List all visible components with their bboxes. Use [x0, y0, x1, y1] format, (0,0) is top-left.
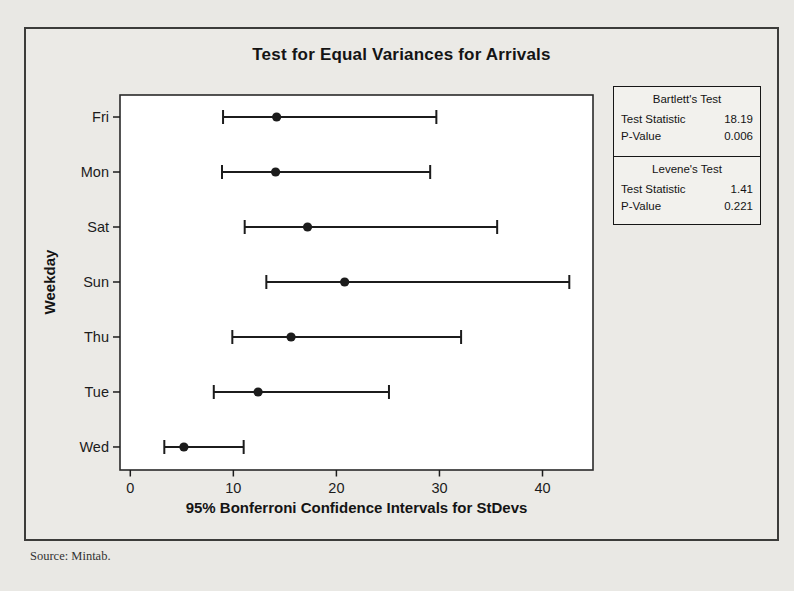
category-label: Sun — [83, 274, 109, 290]
stat-label: P-Value — [621, 198, 661, 215]
stdev-point-sat — [303, 222, 312, 231]
levene-test-title: Levene's Test — [621, 163, 753, 175]
x-tick-label: 40 — [534, 480, 550, 496]
stdev-point-thu — [286, 332, 295, 341]
stat-row: P-Value 0.221 — [621, 198, 753, 215]
stat-label: P-Value — [621, 128, 661, 145]
stdev-point-sun — [340, 277, 349, 286]
stats-panel: Bartlett's Test Test Statistic 18.19 P-V… — [613, 86, 761, 225]
stat-value: 18.19 — [724, 111, 753, 128]
bartlett-test-title: Bartlett's Test — [621, 93, 753, 105]
category-label: Wed — [79, 439, 109, 455]
stat-value: 0.221 — [724, 198, 753, 215]
stat-value: 0.006 — [724, 128, 753, 145]
stdev-point-wed — [179, 442, 188, 451]
stdev-point-mon — [271, 167, 280, 176]
category-label: Mon — [81, 164, 109, 180]
stdev-point-fri — [272, 112, 281, 121]
x-tick-label: 20 — [328, 480, 344, 496]
category-label: Thu — [84, 329, 109, 345]
stat-label: Test Statistic — [621, 181, 686, 198]
category-label: Sat — [87, 219, 109, 235]
stat-value: 1.41 — [731, 181, 753, 198]
source-note: Source: Mintab. — [30, 549, 111, 564]
x-tick-label: 10 — [225, 480, 241, 496]
figure-frame: Test for Equal Variances for Arrivals We… — [24, 27, 779, 541]
stat-row: Test Statistic 18.19 — [621, 111, 753, 128]
bartlett-test-section: Bartlett's Test Test Statistic 18.19 P-V… — [614, 87, 760, 156]
category-label: Tue — [85, 384, 109, 400]
stat-row: P-Value 0.006 — [621, 128, 753, 145]
stdev-point-tue — [253, 387, 262, 396]
stat-row: Test Statistic 1.41 — [621, 181, 753, 198]
x-axis-title: 95% Bonferroni Confidence Intervals for … — [120, 499, 593, 516]
levene-test-section: Levene's Test Test Statistic 1.41 P-Valu… — [614, 156, 760, 225]
stat-label: Test Statistic — [621, 111, 686, 128]
x-tick-label: 0 — [126, 480, 134, 496]
x-tick-label: 30 — [431, 480, 447, 496]
category-label: Fri — [92, 109, 109, 125]
